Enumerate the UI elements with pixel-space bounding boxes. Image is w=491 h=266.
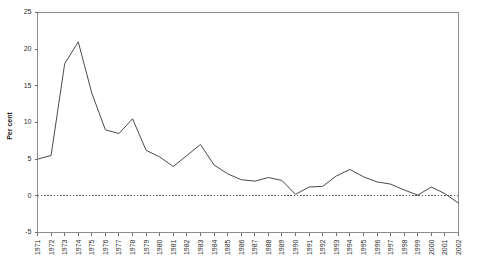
chart-container: -50510152025 197119721973197419751976197… bbox=[0, 0, 491, 266]
plot-frame-group bbox=[38, 13, 459, 233]
line-chart: -50510152025 197119721973197419751976197… bbox=[0, 0, 491, 266]
y-tick-label: 15 bbox=[24, 82, 32, 89]
y-axis-title: Per cent bbox=[6, 112, 13, 140]
x-tick-label: 1974 bbox=[75, 239, 82, 255]
x-tick-label: 1972 bbox=[48, 239, 55, 255]
x-tick-label: 1988 bbox=[265, 239, 272, 255]
x-tick-label: 1977 bbox=[115, 239, 122, 255]
plot-area-frame bbox=[38, 13, 459, 233]
x-tick-label: 1982 bbox=[183, 239, 190, 255]
x-tick-label: 1975 bbox=[88, 239, 95, 255]
x-tick-label: 1998 bbox=[401, 239, 408, 255]
y-axis-title-group: Per cent bbox=[6, 112, 13, 140]
x-tick-label: 1997 bbox=[387, 239, 394, 255]
y-tick-label: 5 bbox=[28, 155, 32, 162]
x-tick-label: 1984 bbox=[211, 239, 218, 255]
data-series-line bbox=[38, 42, 459, 203]
x-tick-label: 2002 bbox=[455, 239, 462, 255]
y-tick-label: 25 bbox=[24, 8, 32, 15]
x-axis-ticks-group: 1971197219731974197519761977197819791980… bbox=[34, 233, 462, 256]
y-tick-label: 10 bbox=[24, 118, 32, 125]
x-tick-label: 1991 bbox=[306, 239, 313, 255]
x-tick-label: 1995 bbox=[360, 239, 367, 255]
y-tick-label: 0 bbox=[28, 192, 32, 199]
y-tick-label: -5 bbox=[25, 228, 31, 235]
y-tick-label: 20 bbox=[24, 45, 32, 52]
x-tick-label: 2001 bbox=[441, 239, 448, 255]
x-tick-label: 1990 bbox=[292, 239, 299, 255]
x-tick-label: 1996 bbox=[374, 239, 381, 255]
x-tick-label: 1987 bbox=[251, 239, 258, 255]
x-tick-label: 1976 bbox=[102, 239, 109, 255]
x-tick-label: 1985 bbox=[224, 239, 231, 255]
x-tick-label: 1973 bbox=[61, 239, 68, 255]
x-tick-label: 1983 bbox=[197, 239, 204, 255]
x-tick-label: 1994 bbox=[346, 239, 353, 255]
x-tick-label: 2000 bbox=[428, 239, 435, 255]
y-axis-ticks-group: -50510152025 bbox=[24, 8, 38, 235]
x-tick-label: 1971 bbox=[34, 239, 41, 255]
x-tick-label: 1981 bbox=[170, 239, 177, 255]
x-tick-label: 1999 bbox=[414, 239, 421, 255]
x-tick-label: 1989 bbox=[278, 239, 285, 255]
x-tick-label: 1980 bbox=[156, 239, 163, 255]
data-series-group bbox=[38, 42, 459, 203]
x-tick-label: 1992 bbox=[319, 239, 326, 255]
x-tick-label: 1979 bbox=[143, 239, 150, 255]
x-tick-label: 1978 bbox=[129, 239, 136, 255]
x-tick-label: 1993 bbox=[333, 239, 340, 255]
x-tick-label: 1986 bbox=[238, 239, 245, 255]
